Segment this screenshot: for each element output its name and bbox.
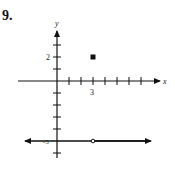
tick-label-x-3: 3 (90, 88, 94, 97)
y-axis-label: y (54, 19, 59, 28)
x-axis-label: x (162, 77, 167, 86)
filled-point-3-2 (91, 55, 96, 60)
open-point-3-neg5 (91, 139, 95, 143)
coordinate-plane: y x 3 2 -5 (0, 0, 175, 170)
graph-figure: 9. (0, 0, 175, 170)
problem-number: 9. (2, 8, 13, 24)
tick-label-y-2: 2 (46, 53, 50, 62)
tick-label-y-neg5: -5 (43, 138, 49, 146)
